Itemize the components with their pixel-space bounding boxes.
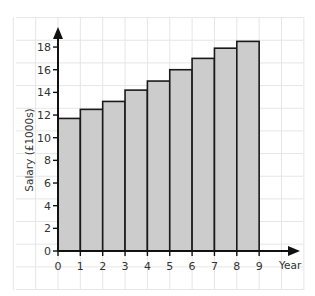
bar-year-1	[58, 118, 80, 251]
bars	[58, 41, 259, 251]
x-tick-label: 8	[233, 260, 240, 273]
x-ticks: 0123456789	[55, 251, 263, 273]
bar-year-5	[147, 81, 169, 251]
bar-year-8	[214, 48, 236, 251]
salary-histogram-chart: 0123456789 024681012141618 Year Salary (…	[0, 0, 315, 296]
y-tick-label: 2	[44, 222, 51, 235]
x-tick-label: 2	[99, 260, 106, 273]
x-tick-label: 1	[77, 260, 84, 273]
x-tick-label: 5	[166, 260, 173, 273]
y-tick-label: 8	[44, 154, 51, 167]
x-tick-label: 3	[122, 260, 129, 273]
bar-year-2	[80, 109, 102, 251]
bar-year-4	[125, 90, 147, 251]
y-ticks: 024681012141618	[37, 41, 58, 258]
bar-year-7	[192, 58, 214, 251]
y-axis-arrow-icon	[53, 27, 63, 39]
bar-year-6	[170, 70, 192, 251]
x-tick-label: 0	[55, 260, 62, 273]
bar-year-9	[237, 41, 259, 251]
bar-year-3	[103, 101, 125, 251]
y-tick-label: 18	[37, 41, 51, 54]
x-tick-label: 4	[144, 260, 151, 273]
y-axis-title: Salary (£1000s)	[23, 108, 35, 191]
y-tick-label: 12	[37, 109, 51, 122]
x-axis-title: Year	[278, 259, 302, 271]
y-tick-label: 16	[37, 64, 51, 77]
x-tick-label: 7	[211, 260, 218, 273]
y-tick-label: 4	[44, 200, 51, 213]
y-tick-label: 6	[44, 177, 51, 190]
y-tick-label: 0	[44, 245, 51, 258]
x-tick-label: 6	[189, 260, 196, 273]
x-axis-arrow-icon	[288, 246, 300, 256]
y-tick-label: 14	[37, 86, 51, 99]
y-tick-label: 10	[37, 132, 51, 145]
x-tick-label: 9	[256, 260, 263, 273]
